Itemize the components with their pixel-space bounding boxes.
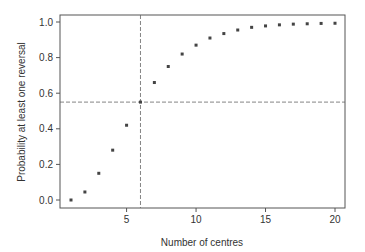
y-axis-ticks: 0.00.20.40.60.81.0 bbox=[39, 17, 60, 206]
data-point bbox=[153, 81, 156, 84]
data-point bbox=[195, 44, 198, 47]
y-tick-label: 0.0 bbox=[39, 195, 53, 206]
y-tick-label: 0.4 bbox=[39, 123, 53, 134]
data-point bbox=[208, 37, 211, 40]
data-point bbox=[222, 32, 225, 35]
data-point bbox=[181, 53, 184, 56]
x-tick-label: 5 bbox=[124, 214, 130, 225]
data-point bbox=[264, 24, 267, 27]
y-axis-label: Probability at least one reversal bbox=[16, 42, 27, 182]
data-point bbox=[111, 149, 114, 152]
plot-area-frame bbox=[60, 15, 345, 208]
data-point bbox=[70, 199, 73, 202]
data-point bbox=[334, 22, 337, 25]
data-point bbox=[236, 29, 239, 32]
probability-scatter-chart: 0.00.20.40.60.81.0 5101520 Number of cen… bbox=[0, 0, 365, 252]
plot-border bbox=[60, 15, 345, 208]
data-point bbox=[306, 22, 309, 25]
x-axis-label: Number of centres bbox=[161, 237, 243, 248]
data-point bbox=[83, 190, 86, 193]
data-point bbox=[278, 23, 281, 26]
data-point bbox=[97, 172, 100, 175]
data-point bbox=[167, 65, 170, 68]
x-axis-ticks: 5101520 bbox=[124, 208, 341, 225]
data-point bbox=[320, 22, 323, 25]
data-point bbox=[292, 23, 295, 26]
data-point bbox=[250, 26, 253, 29]
y-tick-label: 0.6 bbox=[39, 88, 53, 99]
x-tick-label: 15 bbox=[260, 214, 272, 225]
data-point bbox=[125, 124, 128, 127]
data-points bbox=[70, 22, 337, 202]
y-tick-label: 1.0 bbox=[39, 17, 53, 28]
y-tick-label: 0.8 bbox=[39, 52, 53, 63]
x-tick-label: 10 bbox=[190, 214, 202, 225]
reference-lines bbox=[60, 15, 345, 208]
y-tick-label: 0.2 bbox=[39, 159, 53, 170]
data-point bbox=[139, 101, 142, 104]
x-tick-label: 20 bbox=[329, 214, 341, 225]
